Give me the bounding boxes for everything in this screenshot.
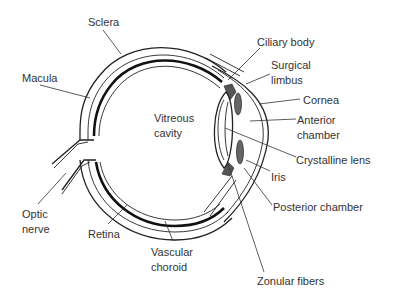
ciliary-body-leader (228, 48, 260, 80)
label-vitreous-line2: cavity (154, 127, 183, 139)
anterior-chamber-leader (250, 119, 296, 121)
cornea-leader (259, 99, 300, 104)
sclera-shape (80, 48, 232, 240)
label-vascular-line1: Vascular (151, 246, 193, 258)
label-anterior-line2: chamber (297, 129, 340, 141)
eye-diagram: Sclera Macula Vitreous cavity Ciliary bo… (0, 0, 393, 303)
iris-lower-shape (222, 140, 244, 176)
label-macula: Macula (22, 72, 58, 84)
label-retina: Retina (88, 228, 121, 240)
label-cornea: Cornea (303, 94, 340, 106)
surgical-limbus-leader (246, 74, 270, 84)
eye-diagram-svg: Sclera Macula Vitreous cavity Ciliary bo… (0, 0, 393, 303)
label-crystalline-lens: Crystalline lens (296, 154, 371, 166)
optic-nerve-shape (52, 140, 96, 194)
label-surgical-line2: limbus (271, 74, 303, 86)
label-sclera: Sclera (88, 16, 120, 28)
retina-shape (99, 66, 220, 220)
label-surgical-line1: Surgical (271, 59, 311, 71)
label-ciliary-body: Ciliary body (257, 36, 315, 48)
optic-nerve-leader (38, 173, 66, 204)
macula-leader (40, 85, 90, 98)
choroid-shape (94, 61, 224, 227)
label-vascular-line2: choroid (151, 261, 187, 273)
label-zonular-fibers: Zonular fibers (257, 275, 325, 287)
vascular-choroid-leader (165, 221, 173, 241)
zonular-fibers-leader (228, 164, 264, 272)
sclera-leader (103, 30, 121, 54)
label-anterior-line1: Anterior (297, 114, 336, 126)
label-posterior-chamber: Posterior chamber (273, 201, 363, 213)
labels: Sclera Macula Vitreous cavity Ciliary bo… (22, 16, 371, 287)
label-iris: Iris (271, 171, 286, 183)
label-optic-line2: nerve (22, 223, 50, 235)
label-vitreous-line1: Vitreous (154, 112, 195, 124)
label-optic-line1: Optic (22, 208, 48, 220)
